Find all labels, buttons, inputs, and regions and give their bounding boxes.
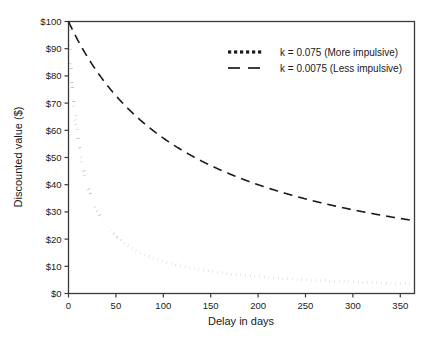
- chart-plot-area: $0$10$20$30$40$50$60$70$80$90$100 050100…: [0, 0, 443, 342]
- y-tick-label: $40: [46, 179, 62, 190]
- y-tick-label: $10: [46, 261, 62, 272]
- y-tick-label: $70: [46, 98, 62, 109]
- legend-dot: [228, 50, 231, 53]
- y-tick-label: $0: [51, 288, 62, 299]
- x-tick-label: 150: [203, 300, 219, 311]
- legend-dot: [246, 50, 249, 53]
- x-axis-title: Delay in days: [208, 315, 275, 327]
- y-tick-label: $90: [46, 43, 62, 54]
- y-tick-label: $50: [46, 152, 62, 163]
- legend-label-1: k = 0.0075 (Less impulsive): [280, 63, 402, 74]
- y-axis: $0$10$20$30$40$50$60$70$80$90$100: [40, 16, 68, 299]
- legend-dot: [252, 50, 255, 53]
- legend-dot: [240, 50, 243, 53]
- chart-figure: $0$10$20$30$40$50$60$70$80$90$100 050100…: [0, 0, 443, 342]
- x-tick-label: 200: [250, 300, 266, 311]
- legend-dot: [234, 50, 237, 53]
- x-tick-label: 0: [66, 300, 71, 311]
- y-tick-label: $80: [46, 70, 62, 81]
- y-axis-title: Discounted value ($): [12, 107, 24, 208]
- x-tick-label: 250: [298, 300, 314, 311]
- legend-label-0: k = 0.075 (More impulsive): [280, 47, 398, 58]
- legend-dot: [258, 50, 261, 53]
- x-tick-label: 300: [345, 300, 361, 311]
- y-tick-label: $60: [46, 125, 62, 136]
- y-tick-label: $100: [40, 16, 61, 27]
- x-tick-label: 50: [111, 300, 122, 311]
- y-tick-label: $30: [46, 206, 62, 217]
- x-tick-label: 100: [155, 300, 171, 311]
- x-axis: 050100150200250300350: [66, 294, 408, 311]
- x-tick-label: 350: [392, 300, 408, 311]
- y-tick-label: $20: [46, 234, 62, 245]
